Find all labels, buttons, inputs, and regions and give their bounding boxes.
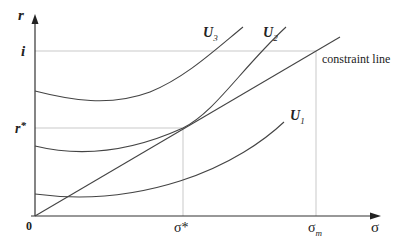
sigma-star-label: σ*	[174, 220, 189, 235]
indifference-curve-diagram: r i r* 0 σ* σm σ U3 U2 U1 constraint lin…	[0, 0, 403, 246]
x-axis-label: σ	[371, 219, 379, 235]
u3-label: U3	[203, 25, 218, 43]
u1-label: U1	[290, 108, 305, 126]
y-axis-label: r	[18, 7, 24, 23]
curve-u2	[35, 27, 286, 152]
origin-label: 0	[26, 219, 32, 233]
curve-u1	[35, 122, 284, 197]
sigma-m-label: σm	[308, 220, 323, 238]
y-axis-arrow	[32, 14, 39, 24]
r-star-label: r*	[15, 119, 26, 136]
u2-label: U2	[263, 25, 278, 43]
i-label: i	[21, 43, 26, 59]
constraint-line	[35, 37, 340, 216]
constraint-line-label: constraint line	[322, 52, 390, 66]
